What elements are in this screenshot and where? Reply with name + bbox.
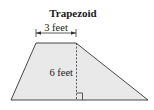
- arrowhead-right-icon: [71, 31, 76, 35]
- height-label: 6 feet: [49, 67, 73, 78]
- diagram-title: Trapezoid: [49, 7, 96, 19]
- top-base-label: 3 feet: [44, 22, 68, 33]
- arrowhead-left-icon: [36, 31, 41, 35]
- trapezoid-diagram: Trapezoid 3 feet 6 feet: [0, 0, 154, 110]
- trapezoid-shape: [11, 43, 148, 100]
- top-base-dimension: 3 feet: [36, 22, 76, 37]
